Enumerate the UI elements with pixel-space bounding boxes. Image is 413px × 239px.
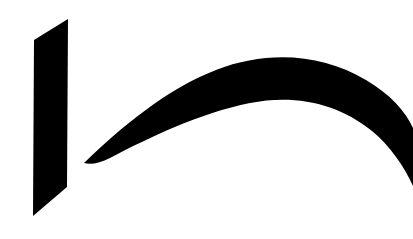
slanted-bar-shape	[33, 19, 68, 216]
logo-mark-svg: Abstract logo mark	[0, 0, 413, 239]
logo-canvas: Abstract logo mark	[0, 0, 413, 239]
